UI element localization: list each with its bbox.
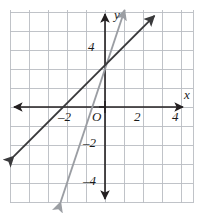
- y-axis-label: y: [114, 8, 120, 21]
- x-tick-label-2: 2: [134, 110, 141, 123]
- axis-lines: [14, 14, 183, 199]
- x-tick-label--2: –2: [58, 110, 71, 123]
- x-tick-label-4: 4: [172, 110, 179, 123]
- graph-canvas: [0, 0, 204, 213]
- y-tick-label--4: –4: [83, 174, 96, 187]
- origin-label: O: [92, 110, 101, 123]
- x-axis-label: x: [184, 88, 190, 101]
- y-tick-label-4: 4: [88, 40, 95, 53]
- coordinate-plane-figure: y x O –2 2 4 4 –2 –4: [0, 0, 204, 213]
- y-tick-label--2: –2: [83, 136, 96, 149]
